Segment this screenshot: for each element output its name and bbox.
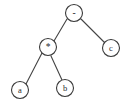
edge-root-to-c [81,19,105,43]
node-c[interactable]: c [103,40,120,57]
edge-root-to-multiply [54,19,67,41]
node-b[interactable]: b [57,80,74,97]
edge-multiply-to-b [51,56,62,80]
node-label-b: b [63,83,67,93]
edge-group [26,19,105,84]
node-a[interactable]: a [12,82,29,99]
node-label-c: c [109,43,113,53]
node-multiply[interactable]: * [40,39,57,56]
node-label-root: - [72,8,75,18]
node-label-multiply: * [46,42,51,52]
edge-multiply-to-a [26,53,42,84]
tree-canvas: - * c a b [0,0,124,106]
expression-tree-diagram: - * c a b [0,0,124,106]
node-group: - * c a b [12,5,120,99]
node-root-minus[interactable]: - [66,5,83,22]
node-label-a: a [18,85,22,95]
